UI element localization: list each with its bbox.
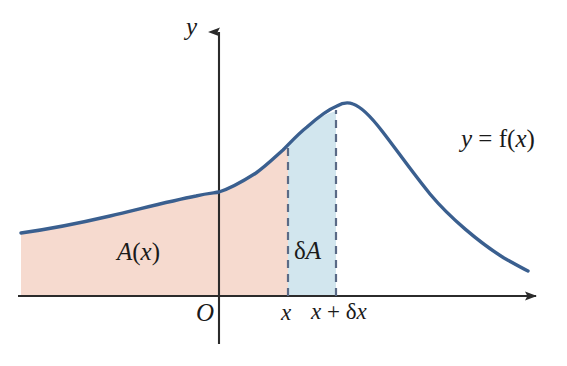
curve-label-y: y: [461, 125, 472, 152]
delta-area-delta-glyph: δ: [294, 237, 306, 264]
curve-equation-label: y = f(x): [461, 126, 535, 151]
curve-label-paren-close: ): [526, 125, 534, 152]
y-axis-label: y: [186, 14, 197, 39]
x-axis-tick-label-x: x: [281, 301, 291, 324]
origin-label: O: [196, 300, 214, 325]
x-plus-dx-var: x: [357, 299, 367, 324]
delta-area-A-glyph: A: [306, 237, 321, 264]
area-label-paren-close: ): [152, 238, 160, 265]
area-function-label: A(x): [117, 239, 160, 264]
x-plus-dx-delta: δ: [346, 299, 357, 324]
curve-label-var: x: [515, 125, 526, 152]
delta-area-label: δA: [294, 238, 321, 263]
area-under-curve-figure: y O x x + δx A(x) δA y = f(x): [0, 0, 567, 366]
area-label-paren-open: (: [132, 238, 140, 265]
x-axis-tick-label-x-plus-delta-x: x + δx: [311, 300, 367, 323]
x-plus-dx-lead: x: [311, 299, 321, 324]
curve-label-equals: =: [478, 125, 492, 152]
area-label-var: x: [141, 238, 152, 265]
x-plus-dx-plus: +: [327, 299, 340, 324]
shaded-area-Ax: [21, 145, 288, 296]
area-label-A: A: [117, 238, 132, 265]
curve-label-f: f: [499, 125, 507, 152]
